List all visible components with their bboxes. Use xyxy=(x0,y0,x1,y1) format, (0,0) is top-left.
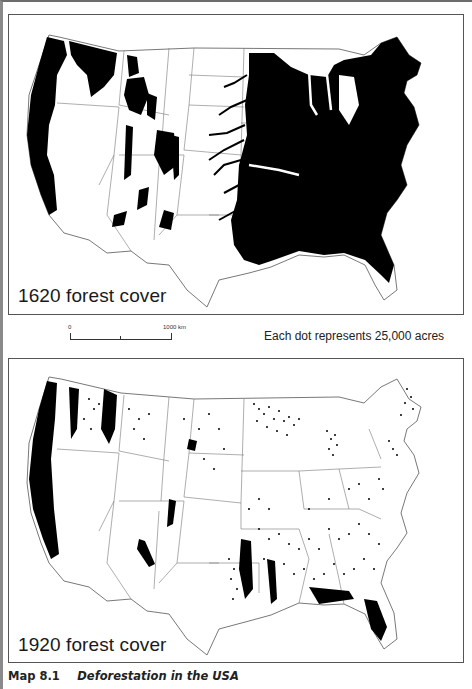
map-1920-panel: 1920 forest cover xyxy=(8,358,464,663)
us-outline xyxy=(27,377,421,655)
scale-bar xyxy=(70,333,172,340)
dot-legend-note: Each dot represents 25,000 acres xyxy=(264,329,444,343)
scale-midpoint-tick xyxy=(120,336,121,339)
map-1920-graphic xyxy=(9,359,464,663)
scale-end-label: 1000 km xyxy=(163,324,186,330)
scale-start-label: 0 xyxy=(68,324,71,330)
map-1920-label: 1920 forest cover xyxy=(18,634,167,656)
figure-caption: Map 8.1 Deforestation in the USA xyxy=(8,669,239,683)
caption-title: Deforestation in the USA xyxy=(77,669,239,683)
map-1620-panel: 1620 forest cover xyxy=(8,14,464,315)
scale-legend-row: 0 1000 km Each dot represents 25,000 acr… xyxy=(0,320,472,352)
map-1620-graphic xyxy=(9,15,464,315)
forest-dots-1920 xyxy=(29,381,387,641)
map-1620-label: 1620 forest cover xyxy=(18,285,167,307)
caption-number: Map 8.1 xyxy=(8,669,60,683)
forest-cover-1620 xyxy=(27,37,421,283)
